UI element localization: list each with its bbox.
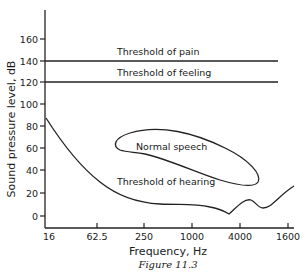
x-tick-labels: 16 62.5 250 1000 4000 1600 [43, 231, 300, 242]
svg-text:1000: 1000 [180, 231, 204, 242]
y-ticks [40, 39, 45, 216]
svg-text:250: 250 [135, 231, 153, 242]
svg-text:20: 20 [26, 188, 38, 199]
threshold-of-hearing-label: Threshold of hearing [116, 176, 215, 187]
svg-text:0: 0 [32, 211, 38, 222]
svg-text:100: 100 [20, 99, 38, 110]
svg-text:120: 120 [20, 77, 38, 88]
figure-caption: Figure 11.3 [137, 259, 197, 270]
svg-text:1600: 1600 [276, 231, 300, 242]
threshold-of-feeling-label: Threshold of feeling [116, 67, 211, 78]
svg-text:160: 160 [20, 34, 38, 45]
x-ticks [97, 223, 288, 228]
normal-speech-label: Normal speech [136, 141, 207, 152]
y-axis-title: Sound pressure level, dB [5, 61, 18, 198]
svg-text:40: 40 [26, 165, 38, 176]
svg-text:140: 140 [20, 56, 38, 67]
svg-text:16: 16 [43, 231, 55, 242]
threshold-of-pain-label: Threshold of pain [116, 46, 200, 57]
chart: 0 20 40 60 80 100 120 140 160 16 62.5 25… [0, 0, 306, 274]
x-axis-title: Frequency, Hz [129, 245, 207, 258]
svg-text:60: 60 [26, 143, 38, 154]
svg-text:4000: 4000 [228, 231, 252, 242]
y-tick-labels: 0 20 40 60 80 100 120 140 160 [20, 34, 38, 222]
threshold-of-hearing-curve [46, 118, 294, 214]
svg-text:62.5: 62.5 [86, 231, 107, 242]
svg-text:80: 80 [26, 121, 38, 132]
